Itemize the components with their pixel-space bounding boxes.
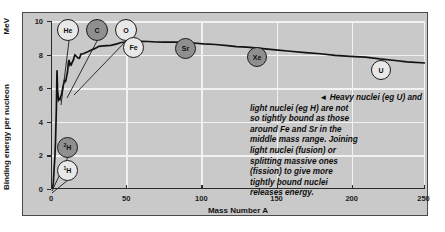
marker-he: He <box>57 19 79 41</box>
y-axis-tick <box>47 88 51 89</box>
annotation-line: splitting massive ones <box>250 157 422 168</box>
x-axis-tick <box>51 185 52 189</box>
marker-c: C <box>86 19 108 41</box>
annotation-line: releases energy. <box>250 188 422 199</box>
annotation-line: ◄ Heavy nuclei (eg U) and <box>250 93 422 104</box>
x-axis-tick-label: 0 <box>49 194 53 203</box>
marker-xe: Xe <box>247 47 267 67</box>
x-axis-tick-label: 50 <box>122 194 130 203</box>
marker-label-hydrogen-2: 2H <box>64 144 72 151</box>
annotation-line: tightly bound nuclei <box>250 178 422 189</box>
marker-label-u: U <box>378 67 383 74</box>
annotation-line: middle mass range. Joining <box>250 135 422 146</box>
x-axis-title: Mass Number A <box>208 206 268 215</box>
annotation-text: ◄ Heavy nuclei (eg U) and light nuclei (… <box>250 93 422 199</box>
marker-label-o: O <box>123 27 128 34</box>
y-axis-tick <box>47 55 51 56</box>
marker-hydrogen-2: 2H <box>57 137 78 158</box>
y-axis-tick <box>47 189 51 190</box>
y-axis-tick <box>47 21 51 22</box>
annotation-line: so tightly bound as those <box>250 114 422 125</box>
marker-sr: Sr <box>175 38 196 59</box>
marker-fe: Fe <box>123 37 144 58</box>
marker-hydrogen-1: 1H <box>57 160 78 181</box>
marker-base-h: H <box>66 144 71 151</box>
annotation-line: light nuclei (eg H) are not <box>250 104 422 115</box>
y-axis-tick-label: 10 <box>35 17 43 26</box>
marker-label-c: C <box>94 27 99 34</box>
marker-label-xe: Xe <box>253 54 262 61</box>
y-axis-tick-label: 4 <box>39 117 43 126</box>
marker-label-sr: Sr <box>182 45 189 52</box>
chart-frame: 0 50 100 150 200 250 0 2 4 6 8 10 Mass N… <box>22 12 428 216</box>
annotation-line: light nuclei (fusion) or <box>250 146 422 157</box>
y-axis-tick <box>47 155 51 156</box>
x-axis-tick <box>201 185 202 189</box>
y-axis-title: Binding energy per nucleon <box>2 40 16 190</box>
annotation-line: around Fe and Sr in the <box>250 125 422 136</box>
y-axis-tick-label: 0 <box>39 185 43 194</box>
y-axis-line <box>51 21 52 189</box>
marker-label-fe: Fe <box>129 44 137 51</box>
binding-energy-chart-figure: 0 50 100 150 200 250 0 2 4 6 8 10 Mass N… <box>0 0 445 232</box>
annotation-line: (fission) to give more <box>250 167 422 178</box>
x-axis-tick <box>424 185 425 189</box>
marker-u: U <box>371 60 391 80</box>
y-axis-tick-label: 8 <box>39 50 43 59</box>
y-axis-tick-label: 6 <box>39 84 43 93</box>
x-axis-tick <box>126 185 127 189</box>
x-axis-tick-label: 100 <box>195 194 208 203</box>
marker-label-hydrogen-1: 1H <box>64 167 72 174</box>
marker-base-h: H <box>66 167 71 174</box>
y-axis-unit-label: MeV <box>2 18 16 34</box>
y-axis-tick <box>47 122 51 123</box>
y-axis-tick-label: 2 <box>39 151 43 160</box>
marker-label-he: He <box>64 27 73 34</box>
